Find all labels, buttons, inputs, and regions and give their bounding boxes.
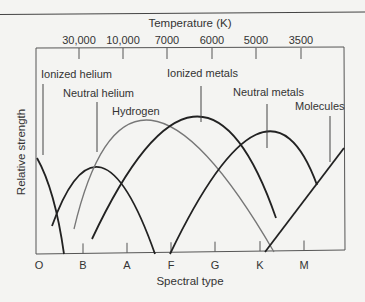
label-ionized-helium: Ionized helium: [41, 68, 112, 80]
label-neutral-helium: Neutral helium: [63, 87, 134, 99]
label-ionized-metals: Ionized metals: [167, 67, 238, 79]
curve-hydrogen: [74, 120, 274, 252]
bottom-tick-label: O: [35, 259, 44, 271]
curves: Ionized heliumNeutral heliumHydrogenIoni…: [37, 67, 345, 254]
y-axis-title: Relative strength: [15, 109, 27, 195]
top-tick-label: 5000: [244, 34, 268, 46]
top-tick-label: 6000: [200, 34, 224, 46]
x-axis-title: Spectral type: [156, 275, 223, 287]
top-axis-title: Temperature (K): [148, 17, 231, 29]
bottom-axis-ticks: OBAFGKM: [35, 241, 309, 271]
bottom-tick-label: F: [168, 259, 175, 271]
top-tick-label: 30,000: [62, 34, 96, 46]
label-neutral-metals: Neutral metals: [233, 86, 304, 98]
bottom-tick-label: M: [299, 259, 308, 271]
bottom-tick-label: A: [123, 259, 131, 271]
bottom-tick-label: B: [79, 259, 86, 271]
bottom-tick-label: G: [211, 259, 220, 271]
top-axis-ticks: 30,00010,0007000600050003500: [62, 34, 313, 59]
label-hydrogen: Hydrogen: [112, 105, 160, 117]
top-tick-label: 7000: [155, 34, 179, 46]
spectral-line-chart: Temperature (K) Spectral type Relative s…: [0, 0, 365, 302]
curve-molecules: [265, 148, 344, 252]
top-tick-label: 3500: [289, 34, 313, 46]
bottom-tick-label: K: [256, 259, 264, 271]
top-tick-label: 10,000: [106, 34, 140, 46]
label-molecules: Molecules: [295, 100, 345, 112]
curve-neutral-helium: [52, 167, 155, 254]
